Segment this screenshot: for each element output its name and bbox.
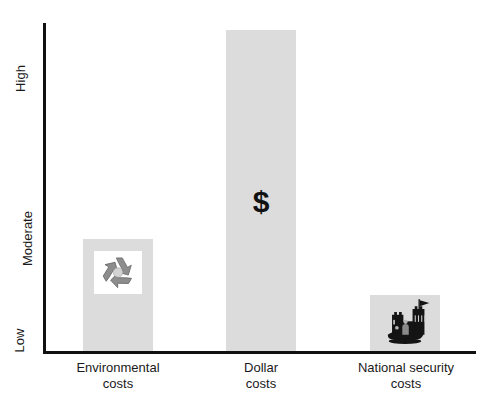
plot-area: $ [46,23,476,351]
x-label-dollar-costs: Dollar costs [191,360,331,392]
x-axis-line [43,351,476,354]
y-tick-label-low-text: Low [13,329,26,353]
y-tick-label-high-text: High [14,65,27,92]
x-label-environmental-costs: Environmental costs [38,360,198,392]
y-tick-label-moderate: Moderate [0,232,40,245]
x-label-national-line2: costs [326,376,486,392]
bar-national-security-costs [370,295,440,351]
x-label-dollar-line1: Dollar [191,360,331,376]
x-label-dollar-line2: costs [191,376,331,392]
x-label-national-line1: National security [326,360,486,376]
recycle-icon [94,251,142,294]
dollar-sign-icon: $ [226,187,296,217]
bar-chart: High Moderate Low [0,0,491,415]
castle-icon [378,297,432,351]
y-tick-label-high: High [0,72,40,85]
bar-dollar-costs: $ [226,30,296,351]
x-label-environmental-line2: costs [38,376,198,392]
x-label-national-security-costs: National security costs [326,360,486,392]
bar-environmental-costs [83,239,153,351]
x-label-environmental-line1: Environmental [38,360,198,376]
y-tick-label-low: Low [0,334,40,347]
y-tick-label-moderate-text: Moderate [21,211,34,266]
